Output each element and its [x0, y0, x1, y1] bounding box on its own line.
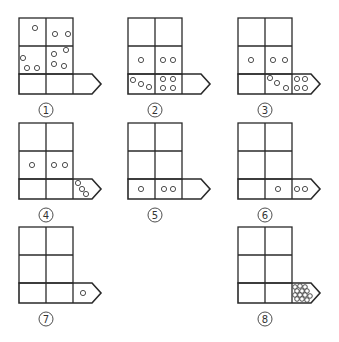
- ball-icon: [170, 57, 175, 62]
- ball-icon: [29, 162, 34, 167]
- ball-icon: [305, 298, 310, 303]
- ball-icon: [170, 186, 175, 191]
- ball-icon: [52, 31, 57, 36]
- ball-icon: [300, 297, 305, 302]
- ball-icon: [303, 293, 308, 298]
- ball-icon: [80, 290, 85, 295]
- ball-icon: [170, 76, 175, 81]
- panel-label: 6: [262, 210, 268, 221]
- ball-icon: [270, 57, 275, 62]
- ball-icon: [308, 294, 313, 299]
- ball-icon: [34, 65, 39, 70]
- ball-icon: [275, 186, 280, 191]
- ball-icon: [160, 57, 165, 62]
- ball-icon: [75, 180, 80, 185]
- ball-icon: [51, 61, 56, 66]
- arrow-band: [19, 74, 101, 94]
- panel-label: 5: [152, 210, 158, 221]
- panel-label: 8: [262, 314, 268, 325]
- panel-label: 3: [262, 105, 268, 116]
- panel-4: 4: [19, 123, 101, 222]
- panel-label: 2: [152, 105, 158, 116]
- ball-icon: [294, 76, 299, 81]
- ball-icon: [160, 76, 165, 81]
- ball-icon: [65, 31, 70, 36]
- ball-icon: [302, 76, 307, 81]
- ball-icon: [146, 84, 151, 89]
- panel-label: 1: [43, 105, 49, 116]
- ball-icon: [51, 162, 56, 167]
- panel-6: 6: [238, 123, 320, 222]
- ball-icon: [302, 186, 307, 191]
- ball-icon: [61, 63, 66, 68]
- ball-icon: [295, 297, 300, 302]
- panel-2: 2: [128, 18, 210, 117]
- ball-icon: [138, 81, 143, 86]
- ball-icon: [24, 65, 29, 70]
- ball-icon: [79, 186, 84, 191]
- arrow-band: [19, 179, 101, 199]
- ball-icon: [282, 57, 287, 62]
- panel-label: 7: [43, 314, 49, 325]
- panel-7: 7: [19, 227, 101, 326]
- panel-3: 3: [238, 18, 320, 117]
- ball-icon: [170, 85, 175, 90]
- ball-icon: [294, 85, 299, 90]
- ball-icon: [138, 57, 143, 62]
- ball-icon: [32, 25, 37, 30]
- panel-8: 8: [238, 227, 320, 326]
- ball-icon: [138, 186, 143, 191]
- ball-icon: [63, 47, 68, 52]
- panel-label: 4: [43, 210, 49, 221]
- diagram-canvas: 12345678: [0, 0, 339, 342]
- ball-icon: [62, 162, 67, 167]
- panel-5: 5: [128, 123, 210, 222]
- ball-icon: [248, 57, 253, 62]
- ball-icon: [298, 284, 303, 289]
- ball-icon: [83, 191, 88, 196]
- ball-icon: [20, 55, 25, 60]
- ball-icon: [130, 77, 135, 82]
- ball-icon: [160, 85, 165, 90]
- ball-icon: [274, 80, 279, 85]
- panel-1: 1: [19, 18, 101, 117]
- ball-icon: [302, 85, 307, 90]
- panels-figure: 12345678: [0, 0, 339, 342]
- ball-icon: [267, 75, 272, 80]
- ball-icon: [283, 85, 288, 90]
- ball-icon: [51, 51, 56, 56]
- ball-icon: [161, 186, 166, 191]
- ball-icon: [294, 186, 299, 191]
- arrow-band: [19, 283, 101, 303]
